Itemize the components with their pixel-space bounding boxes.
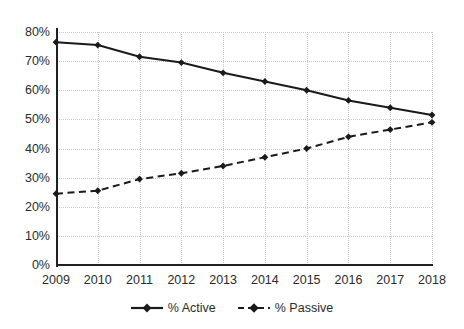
data-point-marker [178, 170, 185, 177]
data-point-marker [178, 59, 185, 66]
data-point-marker [53, 39, 60, 46]
series-line-active [56, 42, 432, 115]
legend-label-active: % Active [168, 302, 216, 315]
legend-item-active[interactable]: % Active [131, 302, 216, 315]
data-point-marker [429, 119, 436, 126]
data-point-marker [387, 126, 394, 133]
legend-swatch-solid-line-icon [131, 302, 163, 314]
legend-swatch-dashed-line-icon [238, 302, 270, 314]
data-point-marker [261, 154, 268, 161]
data-point-marker [94, 187, 101, 194]
data-series-layer [0, 0, 464, 329]
legend-item-passive[interactable]: % Passive [238, 302, 333, 315]
legend-label-passive: % Passive [275, 302, 333, 315]
data-point-marker [94, 42, 101, 49]
data-point-marker [345, 133, 352, 140]
data-point-marker [220, 163, 227, 170]
line-chart: 0%10%20%30%40%50%60%70%80% 2009201020112… [0, 0, 464, 329]
data-point-marker [220, 69, 227, 76]
data-point-marker [303, 145, 310, 152]
series-line-passive [56, 122, 432, 193]
chart-legend: % Active % Passive [0, 302, 464, 315]
data-point-marker [136, 53, 143, 60]
data-point-marker [303, 87, 310, 94]
data-point-marker [345, 97, 352, 104]
data-point-marker [261, 78, 268, 85]
data-point-marker [53, 190, 60, 197]
data-point-marker [387, 104, 394, 111]
data-point-marker [136, 176, 143, 183]
data-point-marker [429, 112, 436, 119]
